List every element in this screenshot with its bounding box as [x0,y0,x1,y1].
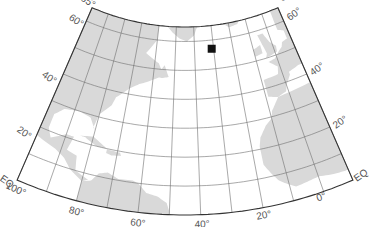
lon-label: 80° [68,204,85,219]
lat-label-right: 60° [285,5,304,23]
lon-label: 20° [255,208,272,222]
lat-label-left: 40° [40,69,59,87]
lon-label: 0° [315,190,328,204]
lat-label-right: 40° [308,60,327,78]
lat-label-left: 60° [67,12,86,30]
location-marker [208,45,216,53]
lon-label: 60° [130,216,146,227]
lat-label-right: EQ [352,166,369,183]
lat-label-left: 20° [15,124,34,142]
lat-label-right: 65° [277,0,296,3]
north-atlantic-map: 65°60°40°20°EQ65°60°40°20°EQ100°80°60°40… [0,0,369,227]
lon-label: 40° [194,218,210,227]
square-marker-icon [208,45,216,53]
lat-label-right: 20° [331,113,350,131]
